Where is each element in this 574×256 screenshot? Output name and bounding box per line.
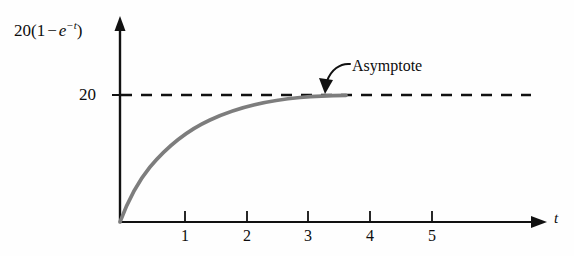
exponential-curve — [120, 95, 346, 222]
x-tick-label-1: 1 — [181, 228, 189, 244]
x-tick-label-2: 2 — [243, 228, 251, 244]
plot-canvas — [0, 0, 574, 256]
x-tick-label-3: 3 — [304, 228, 312, 244]
asymptote-figure: 20(1−e−t) 20 1 2 3 4 5 t Asymptote — [0, 0, 574, 256]
x-tick-label-5: 5 — [428, 228, 436, 244]
y-axis-label-exponent: −t — [66, 19, 76, 31]
asymptote-annotation-label: Asymptote — [352, 58, 422, 74]
y-axis — [115, 16, 126, 222]
x-tick-label-4: 4 — [366, 228, 374, 244]
y-tick-label-20: 20 — [79, 86, 96, 103]
x-ticks — [185, 211, 432, 222]
y-axis-label-prefix: 20(1 — [14, 21, 45, 40]
y-axis-label-suffix: ) — [77, 21, 83, 40]
y-axis-label-minus: − — [45, 21, 59, 40]
x-axis-label: t — [554, 211, 558, 226]
y-axis-label: 20(1−e−t) — [14, 20, 82, 39]
annotation-arrow-icon — [319, 64, 350, 94]
